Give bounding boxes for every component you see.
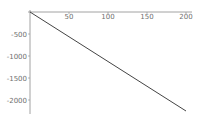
x-tick-label: 100 [101, 13, 114, 21]
x-tick-label: 150 [140, 13, 153, 21]
data-line [30, 12, 186, 111]
y-tick-label: -500 [11, 31, 27, 39]
y-ticks: -500 -1000 -1500 -2000 [7, 31, 30, 105]
y-tick-label: -1000 [7, 53, 27, 61]
y-tick-label: -2000 [7, 97, 27, 105]
line-chart: 50 100 150 200 -500 -1000 -1500 -2000 [0, 0, 201, 123]
y-tick-label: -1500 [7, 75, 27, 83]
x-tick-label: 200 [179, 13, 192, 21]
x-tick-label: 50 [65, 13, 74, 21]
x-ticks: 50 100 150 200 [65, 12, 193, 21]
